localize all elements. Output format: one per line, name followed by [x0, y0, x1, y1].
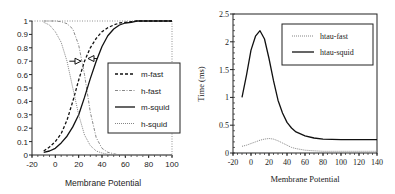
y-tick-label: 0.7	[17, 57, 29, 66]
x-tick-label: 80	[319, 158, 327, 167]
left-y-ticks: 00.10.20.30.40.50.60.70.80.91	[17, 17, 32, 160]
y-tick-label: 2	[225, 38, 229, 47]
y-tick-label: 1.5	[219, 66, 229, 75]
y-tick-label: 0	[225, 149, 229, 158]
y-tick-label: 1	[24, 17, 29, 26]
x-tick-label: 0	[53, 160, 58, 169]
x-tick-label: 140	[371, 158, 383, 167]
y-tick-label: 0.3	[17, 111, 29, 120]
right-plot-border	[233, 14, 377, 153]
left-x-ticks: -20020406080100	[26, 155, 179, 169]
y-tick-label: 0.6	[17, 71, 29, 80]
x-tick-label: -20	[228, 158, 239, 167]
x-tick-label: 100	[165, 160, 179, 169]
x-tick-label: 40	[98, 160, 107, 169]
x-tick-label: 40	[283, 158, 291, 167]
legend-label: h-fast	[141, 87, 162, 96]
x-tick-label: 60	[121, 160, 130, 169]
right-y-ticks: 00.511.522.5	[219, 10, 235, 158]
right-x-ticks: -20020406080100120140	[228, 153, 383, 167]
arrow-head-icon	[75, 58, 81, 64]
left-chart: 00.10.20.30.40.50.60.70.80.91 -200204060…	[0, 0, 198, 194]
x-tick-label: 80	[144, 160, 153, 169]
y-tick-label: 0.2	[17, 124, 29, 133]
legend-label: htau-squid	[320, 48, 354, 57]
y-tick-label: 2.5	[219, 10, 229, 19]
right-plot-frame	[233, 14, 377, 153]
x-tick-label: 60	[301, 158, 309, 167]
y-tick-label: 0.5	[17, 84, 29, 93]
x-tick-label: -20	[26, 160, 38, 169]
y-tick-label: 0	[24, 151, 29, 160]
y-tick-label: 0.4	[17, 97, 29, 106]
x-tick-label: 20	[265, 158, 273, 167]
x-tick-label: 100	[335, 158, 347, 167]
right-legend: htau-fasthtau-squid	[282, 24, 373, 65]
y-tick-label: 0.8	[17, 44, 29, 53]
legend-label: h-squid	[141, 120, 167, 129]
y-tick-label: 0.9	[17, 30, 29, 39]
right-series	[242, 31, 377, 152]
legend-label: m-squid	[141, 103, 169, 112]
arrow-head-icon	[88, 56, 94, 62]
right-legend-box	[282, 24, 373, 65]
series-htau-squid	[242, 31, 377, 140]
legend-label: m-fast	[141, 70, 164, 79]
x-tick-label: 0	[249, 158, 253, 167]
x-tick-label: 20	[74, 160, 83, 169]
series-htau-fast	[242, 139, 377, 152]
y-tick-label: 0.5	[219, 121, 229, 130]
left-annotations	[69, 56, 97, 65]
y-tick-label: 1	[225, 93, 229, 102]
left-x-axis-label: Membrane Potential	[65, 178, 141, 188]
right-x-axis-label: Membrane Potential	[270, 174, 340, 184]
left-legend: m-fasth-fastm-squidh-squid	[108, 63, 180, 133]
x-tick-label: 120	[353, 158, 365, 167]
legend-label: htau-fast	[320, 32, 349, 41]
y-tick-label: 0.1	[17, 138, 29, 147]
